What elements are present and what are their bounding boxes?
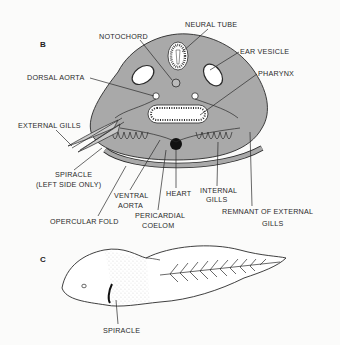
cross-section-b	[68, 34, 267, 166]
label-ear-vesicle: EAR VESICLE	[240, 47, 289, 56]
tadpole-lateral-c	[62, 246, 286, 324]
label-notochord: NOTOCHORD	[99, 32, 148, 41]
label-external-gills: EXTERNAL GILLS	[18, 121, 81, 130]
label-remnant-2: GILLS	[262, 219, 283, 228]
diagram-canvas: B NOTOCHORD NEURAL TUBE EAR VESICLE DORS…	[0, 0, 340, 345]
panel-letter-b: B	[40, 40, 46, 49]
tadpole-body	[62, 246, 286, 306]
label-remnant-1: REMNANT OF EXTERNAL	[222, 207, 313, 216]
label-spiracle-2: (LEFT SIDE ONLY)	[36, 180, 101, 189]
label-spiracle-c: SPIRACLE	[103, 326, 140, 335]
label-ventral-aorta-1: VENTRAL	[114, 191, 149, 200]
dorsal-aorta-right	[192, 93, 198, 99]
label-ventral-aorta-2: AORTA	[118, 201, 143, 210]
neural-tube	[168, 42, 188, 70]
label-internal-gills-1: INTERNAL	[200, 186, 237, 195]
notochord	[172, 79, 180, 87]
label-pharynx: PHARYNX	[258, 69, 294, 78]
label-neural-tube: NEURAL TUBE	[185, 20, 237, 29]
label-dorsal-aorta: DORSAL AORTA	[27, 73, 84, 82]
tadpole-eye	[82, 284, 86, 288]
label-pericardial-2: COELOM	[142, 221, 174, 230]
label-spiracle-1: SPIRACLE	[55, 170, 92, 179]
label-internal-gills-2: GILLS	[206, 195, 227, 204]
label-heart: HEART	[166, 189, 192, 198]
panel-letter-c: C	[40, 255, 46, 264]
label-opercular-fold: OPERCULAR FOLD	[50, 217, 119, 226]
label-pericardial-1: PERICARDIAL	[135, 211, 185, 220]
